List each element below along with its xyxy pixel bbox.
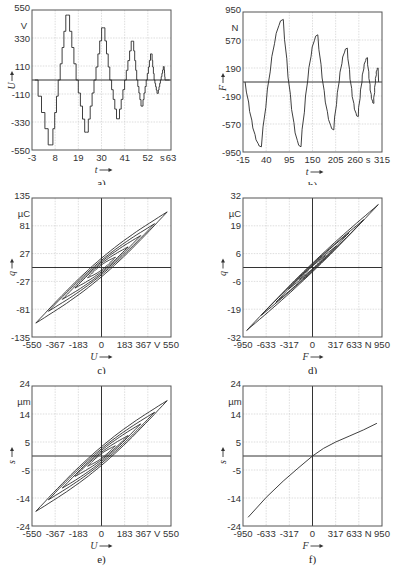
y-tick-label: 330 [14, 33, 30, 44]
y-tick-label: 6 [236, 248, 241, 259]
displacement-force-plot: 24145-5-14-24µms-950-633-3170317633 N950… [200, 376, 395, 574]
x-tick-label: -550 [22, 339, 41, 350]
y-tick-label: 32 [230, 190, 241, 201]
chart-a: 550330110-110-330-550VU-381930415263sta) [0, 0, 200, 185]
panel-caption: d) [308, 364, 318, 374]
x-axis-label: F [301, 351, 323, 362]
svg-text:q: q [217, 271, 228, 276]
svg-text:t: t [306, 166, 309, 177]
svg-text:F: F [217, 84, 228, 92]
y-tick-label: -14 [227, 493, 241, 504]
svg-text:s: s [217, 460, 228, 464]
x-tick-label: 367 V [135, 528, 160, 539]
y-tick-label: 81 [19, 220, 30, 231]
y-axis-label: U [6, 71, 17, 90]
chart-b: 950570190-190-570-950NF-154095150205260 … [200, 0, 395, 185]
x-axis-label: U [90, 351, 112, 362]
y-unit-label: µC [229, 208, 241, 219]
chart-f: 24145-5-14-24µms-950-633-3170317633 N950… [200, 376, 395, 574]
x-tick-label: 950 [374, 528, 390, 539]
voltage-time-plot: 550330110-110-330-550VU-381930415263sta) [0, 0, 200, 185]
y-tick-label: -330 [11, 117, 30, 128]
x-tick-label: 550 [163, 339, 179, 350]
y-tick-label: -190 [222, 91, 241, 102]
x-tick-label: -183 [69, 528, 88, 539]
x-tick-label: 950 [374, 339, 390, 350]
x-axis-label: F [301, 540, 323, 551]
x-tick-label: -15 [236, 154, 250, 165]
y-tick-label: -6 [233, 276, 241, 287]
x-tick-label: 41 [119, 152, 130, 163]
x-tick-label: -550 [22, 528, 41, 539]
chart-d: 32196-6-19-32µCq-950-633-3170317633 N950… [200, 187, 395, 374]
y-tick-label: 24 [230, 378, 241, 389]
y-tick-label: -5 [22, 465, 30, 476]
x-tick-label: 8 [53, 152, 58, 163]
x-tick-label: -633 [257, 339, 276, 350]
x-tick-label: 633 N [346, 339, 371, 350]
x-tick-label: 367 V [135, 339, 160, 350]
x-tick-label: 183 [117, 528, 133, 539]
x-tick-label: 150 [305, 154, 321, 165]
x-tick-label: 0 [99, 528, 104, 539]
x-tick-label: -950 [233, 528, 252, 539]
y-tick-label: -14 [16, 493, 30, 504]
chart-c: 1358127-27-81-135µCq-550-367-1830183367 … [0, 187, 200, 374]
x-tick-label: -367 [46, 339, 65, 350]
x-tick-label: 0 [310, 528, 315, 539]
y-unit-label: µm [228, 396, 241, 407]
x-tick-label: 183 [117, 339, 133, 350]
y-tick-label: -19 [227, 304, 241, 315]
x-tick-label: 0 [310, 339, 315, 350]
x-tick-label: -317 [280, 339, 299, 350]
y-axis-label: F [217, 73, 228, 92]
panel-caption: f) [309, 553, 317, 566]
x-tick-label: 0 [99, 339, 104, 350]
x-tick-label: 317 [328, 339, 344, 350]
y-tick-label: 14 [230, 409, 241, 420]
chart-e: 24145-5-14-24µms-550-367-1830183367 V550… [0, 376, 200, 574]
panel-caption: a) [97, 177, 106, 185]
panel-caption: e) [97, 553, 106, 566]
x-tick-label: -3 [28, 152, 36, 163]
y-tick-label: 5 [25, 437, 30, 448]
x-tick-label: -633 [257, 528, 276, 539]
svg-text:U: U [90, 540, 98, 551]
y-tick-label: 570 [225, 35, 241, 46]
x-tick-label: -950 [233, 339, 252, 350]
svg-text:F: F [301, 351, 309, 362]
x-tick-label: -183 [69, 339, 88, 350]
y-tick-label: -27 [16, 276, 30, 287]
x-axis-label: t [306, 166, 324, 177]
y-tick-label: 5 [236, 437, 241, 448]
x-tick-label: 317 [328, 528, 344, 539]
x-tick-label: -317 [280, 528, 299, 539]
svg-text:U: U [90, 351, 98, 362]
x-axis-label: U [90, 540, 112, 551]
charge-voltage-plot: 1358127-27-81-135µCq-550-367-1830183367 … [0, 187, 200, 374]
x-tick-label: 205 [328, 154, 344, 165]
y-tick-label: 190 [225, 63, 241, 74]
x-tick-label: 95 [284, 154, 295, 165]
x-tick-label: 30 [96, 152, 107, 163]
x-axis-label: t [95, 164, 113, 175]
y-tick-label: 27 [19, 248, 30, 259]
force-time-plot: 950570190-190-570-950NF-154095150205260 … [200, 0, 395, 185]
y-unit-label: V [21, 20, 28, 31]
y-tick-label: 24 [19, 378, 30, 389]
x-tick-label: 315 [374, 154, 390, 165]
y-tick-label: 19 [230, 220, 241, 231]
svg-text:U: U [6, 82, 17, 90]
y-tick-label: -5 [233, 465, 241, 476]
panel-caption: c) [97, 364, 106, 374]
y-tick-label: -81 [16, 304, 30, 315]
displacement-voltage-plot: 24145-5-14-24µms-550-367-1830183367 V550… [0, 376, 200, 574]
panel-caption: b) [308, 179, 318, 185]
svg-text:s: s [6, 460, 17, 464]
y-tick-label: -570 [222, 119, 241, 130]
x-unit-label: s [160, 152, 165, 163]
x-tick-label: 63 [166, 152, 177, 163]
y-tick-label: 14 [19, 409, 30, 420]
charge-force-plot: 32196-6-19-32µCq-950-633-3170317633 N950… [200, 187, 395, 374]
y-axis-label: q [6, 259, 17, 277]
